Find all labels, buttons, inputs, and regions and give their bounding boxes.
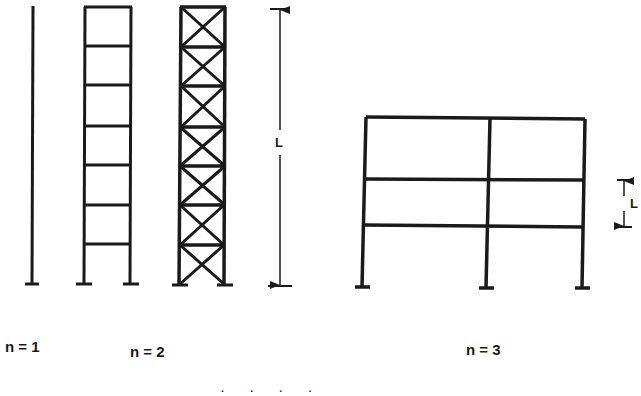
- ladder-frame-structure: [76, 7, 139, 284]
- label-n3: n = 3: [466, 341, 501, 358]
- label-n1: n = 1: [5, 338, 40, 355]
- story-height-label: L: [630, 196, 638, 211]
- column-structure: [25, 6, 39, 284]
- portal-frame-structure: [355, 117, 590, 288]
- label-n2: n = 2: [130, 343, 165, 360]
- caption-partial: · · · ·: [220, 381, 322, 396]
- braced-tower-structure: [172, 7, 233, 285]
- height-label: L: [275, 135, 283, 150]
